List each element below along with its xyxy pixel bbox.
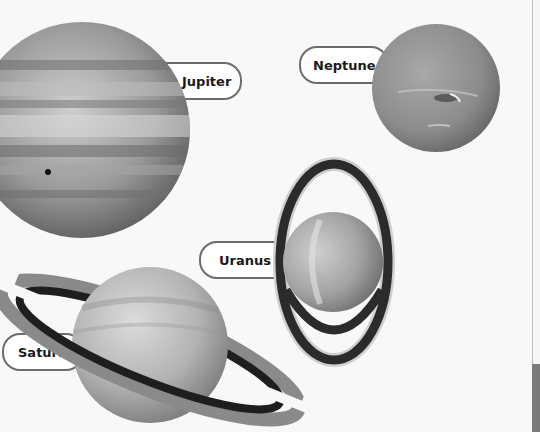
page-edge-tab	[532, 364, 540, 432]
neptune-label-text: Neptune	[313, 58, 376, 73]
neptune-image	[368, 22, 504, 158]
saturn-image	[0, 260, 310, 430]
jupiter-image	[0, 20, 190, 240]
